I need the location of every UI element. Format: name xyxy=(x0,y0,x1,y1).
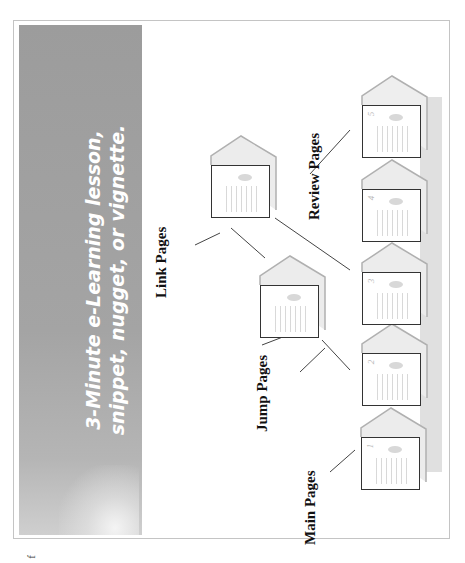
figure-icon xyxy=(389,114,403,121)
text-lines xyxy=(376,458,410,484)
label-review-pages: Review Pages xyxy=(306,133,323,220)
main-page-3: 3 xyxy=(362,272,421,325)
page-number: 2 xyxy=(366,360,376,365)
figure-icon xyxy=(388,446,402,453)
footer-glyph: f xyxy=(25,555,37,559)
page-number: 3 xyxy=(366,279,376,284)
figure-icon xyxy=(238,174,252,181)
link-page xyxy=(211,165,270,218)
figure-icon xyxy=(389,281,403,288)
page-number: 5 xyxy=(366,112,376,117)
figure-icon xyxy=(287,294,301,301)
page-number: 4 xyxy=(366,196,376,201)
text-lines xyxy=(377,210,411,236)
text-lines xyxy=(226,186,260,212)
text-lines xyxy=(275,306,309,332)
main-page-5: 5 xyxy=(362,105,421,158)
main-page-4: 4 xyxy=(362,189,421,242)
text-lines xyxy=(377,126,411,152)
main-page-1: 1 xyxy=(361,437,420,490)
text-lines xyxy=(377,374,411,400)
label-link-pages: Link Pages xyxy=(153,227,170,298)
label-main-pages: Main Pages xyxy=(302,470,319,545)
main-page-2: 2 xyxy=(362,353,421,406)
figure-icon xyxy=(389,362,403,369)
page-number: 1 xyxy=(365,444,375,449)
text-lines xyxy=(377,293,411,319)
label-jump-pages: Jump Pages xyxy=(254,355,271,432)
jump-page xyxy=(260,285,319,338)
figure-icon xyxy=(389,198,403,205)
